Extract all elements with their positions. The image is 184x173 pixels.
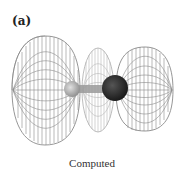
orbital-diagram (0, 0, 184, 173)
figure-caption: Computed (0, 157, 184, 169)
small-atom (64, 81, 80, 97)
large-atom (102, 75, 128, 101)
